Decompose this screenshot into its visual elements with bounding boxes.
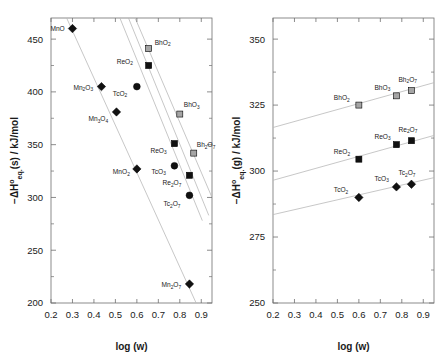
- trendline-group: [273, 83, 434, 215]
- point-label-sub: 7: [213, 145, 216, 150]
- point-label-base: Mn: [73, 84, 82, 91]
- point-label-sub: 2: [347, 98, 350, 103]
- point-label-base: ReO: [374, 133, 388, 140]
- point-label-sub: 2: [125, 93, 128, 98]
- data-point-square: [408, 138, 414, 144]
- y-axis-title-units: / kJ/mol: [9, 117, 20, 157]
- data-point-diamond: [407, 180, 415, 188]
- point-label-base: TcO: [334, 186, 346, 193]
- ytick-label: 200: [27, 297, 43, 308]
- ytick-label: 250: [27, 245, 43, 256]
- point-label: Mn3O4: [88, 115, 108, 124]
- point-label-base: BhO: [374, 84, 387, 91]
- data-point-square: [171, 141, 177, 147]
- point-label-sub: 2: [347, 152, 350, 157]
- point-label: Tc2O7: [163, 200, 180, 209]
- xtick-label: 0.7: [374, 309, 387, 320]
- ytick-label: 250: [249, 297, 265, 308]
- series-re-oxides: ReO2ReO3Re2O7: [334, 126, 418, 162]
- series-bh-oxides: BhO2BhO3Bh2O7: [146, 39, 216, 157]
- xtick-label: 0.3: [288, 309, 301, 320]
- xtick-label: 0.4: [87, 309, 100, 320]
- point-label: ReO2: [117, 58, 134, 67]
- point-label-base: Mn: [161, 281, 170, 288]
- point-label: Bh2O7: [197, 141, 216, 150]
- xtick-label: 0.5: [109, 309, 122, 320]
- point-label: MnO: [50, 25, 64, 32]
- point-label-sub: 7: [178, 204, 181, 209]
- xtick-label: 0.7: [152, 309, 165, 320]
- point-label: Bh2O7: [398, 76, 417, 85]
- y-axis-title: −ΔHoeq.(g) / kJ/mol: [230, 117, 245, 205]
- point-label: Tc2O7: [398, 169, 415, 178]
- xtick-label: 0.8: [395, 309, 408, 320]
- figure-root: 0.20.30.40.50.60.70.80.92002503003504004…: [0, 0, 442, 356]
- point-label-sub: 3: [90, 87, 93, 92]
- y-axis-title-prefix: −ΔH: [231, 184, 242, 204]
- point-label-sub: 3: [388, 136, 391, 141]
- point-label: TcO2: [113, 90, 128, 99]
- point-label: TcO3: [374, 175, 389, 184]
- plot-frame: [273, 18, 434, 303]
- point-label-base: BhO: [334, 94, 347, 101]
- point-label: MnO2: [113, 168, 130, 177]
- point-label-sub: 4: [105, 119, 108, 124]
- data-point-diamond: [392, 183, 400, 191]
- point-label-sub: 3: [163, 171, 166, 176]
- point-label-sub: 3: [388, 87, 391, 92]
- point-label: ReO2: [334, 148, 351, 157]
- series-bh-oxides: BhO2BhO3Bh2O7: [334, 76, 417, 109]
- point-label: BhO3: [184, 101, 200, 110]
- point-label-sub: 7: [413, 173, 416, 178]
- point-label-sub: 3: [386, 178, 389, 183]
- trendline-group: [63, 10, 212, 308]
- xtick-label: 0.2: [44, 309, 57, 320]
- point-label-sub: 3: [197, 105, 200, 110]
- xtick-label: 0.9: [195, 309, 208, 320]
- point-label: Re2O7: [398, 126, 417, 135]
- ytick-label: 350: [27, 139, 43, 150]
- trendline-Mn: [63, 10, 198, 308]
- point-label: Mn2O3: [73, 84, 93, 93]
- chart-panel-right: 0.20.30.40.50.60.70.80.9250275300325350B…: [221, 0, 442, 356]
- data-point-square: [356, 102, 362, 108]
- y-axis-title-subscript: eq.: [238, 170, 246, 180]
- point-label-base: MnO: [113, 168, 127, 175]
- point-label-base: TcO: [113, 90, 125, 97]
- axis-ticks: 0.20.30.40.50.60.70.80.9250275300325350: [249, 18, 434, 320]
- y-axis-title-subscript: eq.: [16, 169, 24, 179]
- point-label-base: TcO: [374, 175, 386, 182]
- data-point-square: [191, 150, 197, 156]
- point-label-base: BhO: [155, 39, 168, 46]
- xtick-label: 0.6: [130, 309, 143, 320]
- y-axis-title-prefix: −ΔH: [9, 184, 20, 204]
- point-label-base: TcO: [151, 168, 163, 175]
- point-label-base: BhO: [184, 101, 197, 108]
- data-point-square: [356, 156, 362, 162]
- point-label-base: ReO: [117, 58, 131, 65]
- point-label: TcO3: [151, 168, 166, 177]
- data-point-square: [186, 172, 192, 178]
- point-label-base: ReO: [334, 148, 348, 155]
- point-label: BhO2: [155, 39, 171, 48]
- y-axis-title-units: / kJ/mol: [231, 117, 242, 157]
- point-label-sub: 7: [179, 183, 182, 188]
- point-label-sub: 2: [127, 172, 130, 177]
- point-label-sub: 2: [168, 42, 171, 47]
- y-axis-title: −ΔHoeq.(s) / kJ/mol: [8, 117, 23, 204]
- point-label: TcO2: [334, 186, 349, 195]
- xtick-label: 0.2: [266, 309, 279, 320]
- data-point-circle: [133, 83, 140, 90]
- data-point-square: [177, 111, 183, 117]
- data-point-diamond: [68, 24, 76, 32]
- data-point-circle: [171, 162, 178, 169]
- data-point-square: [408, 88, 414, 94]
- data-point-square: [393, 142, 399, 148]
- y-axis-title-state: (g): [231, 157, 242, 170]
- point-label: BhO2: [334, 94, 350, 103]
- point-label-sub: 7: [415, 129, 418, 134]
- x-axis-title: log (w): [115, 341, 147, 352]
- x-axis-title: log (w): [337, 341, 369, 352]
- xtick-label: 0.3: [66, 309, 79, 320]
- point-label-base: Mn: [88, 115, 97, 122]
